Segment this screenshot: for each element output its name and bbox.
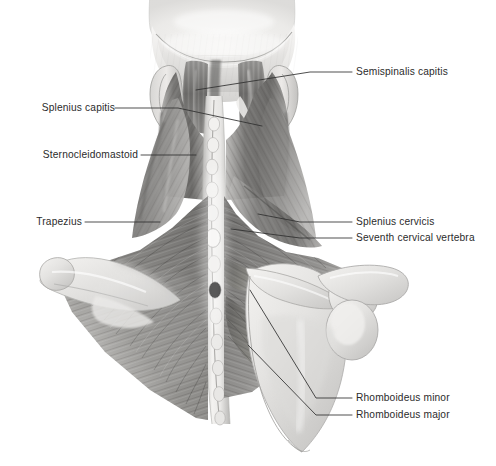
label-semispinalis-capitis: Semispinalis capitis: [356, 66, 448, 78]
label-rhomboideus-minor: Rhomboideus minor: [356, 392, 450, 404]
label-splenius-cervicis: Splenius cervicis: [356, 216, 434, 228]
anatomy-figure: (a): [0, 0, 496, 466]
label-sternocleidomastoid: Sternocleidomastoid: [0, 149, 138, 161]
label-seventh-cervical-vertebra: Seventh cervical vertebra: [356, 232, 475, 244]
label-splenius-capitis: Splenius capitis: [0, 102, 115, 114]
label-trapezius: Trapezius: [0, 216, 82, 228]
label-rhomboideus-major: Rhomboideus major: [356, 409, 450, 421]
